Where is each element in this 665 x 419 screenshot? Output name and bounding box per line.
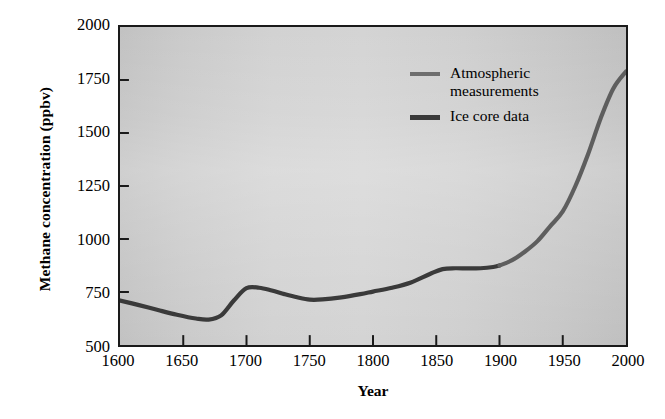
x-tick-mark [499,335,501,345]
y-tick-label: 750 [50,285,110,302]
legend-swatch-icon [410,72,440,76]
x-tick-mark [182,335,184,345]
legend-item: Ice core data [410,107,610,125]
y-tick-label: 1250 [50,178,110,195]
methane-concentration-chart: Methane concentration (ppbv) 20001750150… [0,0,665,419]
x-axis-title: Year [118,382,628,400]
x-tick-mark [246,335,248,345]
y-tick-mark [120,79,129,81]
series-line-ice-core-data [120,266,500,320]
legend-label: Atmospheric measurements [450,64,600,101]
legend-label: Ice core data [450,107,529,125]
y-tick-label: 1500 [50,124,110,141]
x-axis-tick-labels: 160016501700175018001850190019502000 [0,353,665,377]
x-tick-mark [562,335,564,345]
x-tick-mark [435,335,437,345]
y-tick-label: 1750 [50,70,110,87]
y-tick-mark [120,185,129,187]
y-tick-label: 2000 [50,17,110,34]
x-tick-mark [372,335,374,345]
chart-legend: Atmospheric measurementsIce core data [410,64,610,131]
x-tick-mark [309,335,311,345]
legend-item: Atmospheric measurements [410,64,610,101]
y-tick-mark [120,291,129,293]
y-tick-mark [120,132,129,134]
legend-swatch-icon [410,115,440,120]
y-tick-label: 1000 [50,231,110,248]
y-tick-mark [120,238,129,240]
x-tick-label: 2000 [588,353,665,370]
